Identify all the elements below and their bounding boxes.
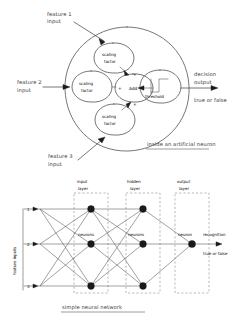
feature-2-arrowhead — [63, 85, 70, 90]
scaling-factor-left-circle — [72, 71, 112, 102]
scaling-factor-top-line1: scaling — [102, 52, 116, 57]
add-plus-top: + — [133, 72, 137, 77]
scaling-factor-bottom-circle — [95, 104, 135, 135]
feature-3-label-line1: feature 3 — [48, 153, 73, 159]
step-function-icon — [151, 79, 168, 94]
input-layer-line2: layer — [78, 186, 88, 191]
hidden-layer-nodes — [140, 206, 147, 290]
network-caption: simple neural network — [61, 304, 145, 312]
feature-2-label-line2: input — [17, 87, 31, 94]
network-output: recognition true or false — [196, 232, 228, 256]
network-diagram: input layer hidden layer output layer fe… — [12, 179, 228, 312]
network-output-arrowhead — [216, 242, 222, 246]
edges-hidden-to-output — [143, 209, 192, 286]
add-plus-left: + — [118, 86, 122, 91]
input-layer-line1: input — [77, 179, 88, 184]
handwritten-neural-network-figure: feature 1 input scaling factor scaling f… — [0, 0, 251, 327]
output-layer-line2: layer — [179, 186, 189, 191]
input-number-3: 3 — [27, 284, 30, 289]
feature-inputs-axis-label: feature inputs — [12, 247, 17, 275]
add-label: add — [129, 86, 137, 91]
neuron-caption-line1: inside an artificial neuron — [147, 141, 216, 147]
decision-output-line3: true or false — [194, 97, 227, 103]
feature-1-label-line1: feature 1 — [47, 11, 72, 17]
input-neurons-label: neurons — [78, 232, 94, 237]
feature-3-arrow-line — [78, 139, 103, 160]
scaling-factor-bottom-line2: factor — [104, 121, 116, 126]
input-layer-nodes — [88, 206, 95, 290]
output-node — [188, 240, 195, 247]
add-node: add + + + — [115, 72, 153, 107]
output-neuron-label: neuron — [178, 232, 193, 237]
threshold-node: threshold — [140, 70, 181, 103]
input-node-1 — [88, 206, 95, 213]
input-node-3 — [88, 283, 95, 290]
threshold-label: threshold — [145, 94, 164, 99]
hidden-node-3 — [140, 283, 147, 290]
scaling-factor-bottom-line1: scaling — [102, 114, 116, 119]
scaling-factor-top: scaling factor — [94, 43, 134, 73]
feature-3-input: feature 3 input — [48, 137, 105, 168]
scaling-factor-top-line2: factor — [104, 59, 116, 64]
output-layer-line1: output — [177, 179, 191, 184]
hidden-node-2 — [140, 241, 147, 248]
network-input-arrows — [24, 207, 38, 288]
feature-1-label-line2: input — [47, 18, 61, 25]
edges-input-to-hidden — [91, 209, 143, 286]
feature-1-arrow-line — [74, 22, 104, 41]
scaling-factor-left: scaling factor — [72, 71, 112, 102]
hidden-layer-line1: hidden — [127, 179, 141, 184]
input-layer-title: input layer — [77, 179, 88, 191]
recognition-label: recognition — [203, 232, 226, 237]
network-true-or-false-label: true or false — [203, 251, 228, 256]
output-layer-title: output layer — [177, 179, 191, 191]
decision-output-line2: output — [194, 79, 212, 86]
hidden-node-1 — [140, 206, 147, 213]
add-plus-bottom: + — [133, 102, 137, 107]
neuron-output-arrowhead — [211, 86, 218, 91]
network-caption-text: simple neural network — [62, 304, 122, 311]
scaling-factor-left-line1: scaling — [79, 81, 93, 86]
neuron-caption: inside an artificial neuron — [146, 141, 216, 149]
scaling-factor-left-line2: factor — [81, 88, 93, 93]
feature-1-input: feature 1 input — [47, 11, 105, 45]
decision-output-line1: decision — [194, 71, 216, 77]
scaling-factor-top-circle — [94, 43, 134, 73]
hidden-layer-title: hidden layer — [127, 179, 141, 191]
neuron-diagram: feature 1 input scaling factor scaling f… — [17, 11, 227, 168]
input-number-1: 1 — [27, 207, 30, 212]
feature-2-input: feature 2 input — [17, 79, 70, 94]
scaling-factor-bottom: scaling factor — [95, 104, 135, 135]
feature-3-label-line2: input — [48, 161, 62, 168]
hidden-layer-line2: layer — [130, 186, 140, 191]
hidden-neurons-label: neurons — [128, 232, 144, 237]
edges-rails-to-input — [40, 209, 91, 286]
input-number-2: 2 — [27, 242, 30, 247]
input-node-2 — [88, 241, 95, 248]
feature-2-label-line1: feature 2 — [17, 79, 42, 85]
